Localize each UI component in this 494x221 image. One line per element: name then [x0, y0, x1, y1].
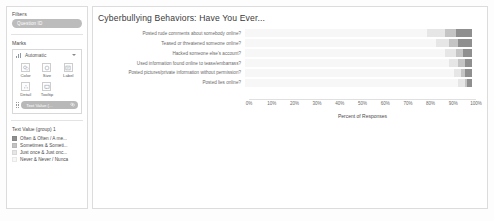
legend-item-label: Sometimes & Someti... — [20, 143, 68, 148]
chevron-down-icon — [72, 54, 76, 56]
x-axis-tick: 20% — [290, 101, 299, 106]
marks-shelf-size[interactable]: Size — [36, 63, 57, 78]
bar-segment[interactable] — [465, 59, 472, 66]
bar-segment[interactable] — [436, 39, 450, 46]
x-axis-tick: 10% — [267, 101, 276, 106]
legend-swatch — [12, 157, 17, 162]
bar-segment[interactable] — [458, 79, 465, 86]
legend-item[interactable]: Never & Never / Nunca — [7, 156, 87, 163]
bar-row: Used information found online to tease/e… — [93, 59, 487, 67]
filter-pill-label: Question ID — [17, 21, 42, 26]
bar-segment[interactable] — [465, 69, 472, 76]
legend-item-label: Often & Often / A me... — [20, 136, 67, 141]
mark-type-label: Automatic — [25, 53, 72, 58]
bar-segment[interactable] — [449, 59, 458, 66]
bar-row-label: Posted pictures/private information with… — [93, 70, 245, 75]
stacked-bar[interactable] — [245, 49, 472, 56]
bar-row-label: Posted rude comments about somebody onli… — [93, 31, 245, 36]
bar-segment[interactable] — [463, 49, 472, 56]
field-pill-color-icon — [70, 102, 75, 108]
bar-segment[interactable] — [458, 59, 465, 66]
marks-shelf-tooltip[interactable]: Tooltip — [36, 82, 57, 97]
x-axis-tick: 60% — [381, 101, 390, 106]
plot-area: Posted rude comments about somebody onli… — [93, 29, 487, 99]
bar-row: Posted pictures/private information with… — [93, 69, 487, 77]
legend-swatch — [12, 143, 17, 148]
legend-item[interactable]: Sometimes & Someti... — [7, 142, 87, 149]
bar-row-label: Teased or threatened someone online? — [93, 41, 245, 46]
bar-segment[interactable] — [449, 39, 458, 46]
stacked-bar[interactable] — [245, 79, 472, 86]
x-axis-tick: 50% — [358, 101, 367, 106]
bar-segment[interactable] — [454, 69, 461, 76]
marks-shelf-label-label: Label — [63, 73, 74, 78]
bar-segment[interactable] — [445, 29, 456, 36]
bar-segment[interactable] — [458, 39, 472, 46]
bar-segment[interactable] — [245, 59, 449, 66]
bar-row-label: Posted lies online? — [93, 80, 245, 85]
marks-shelf-label[interactable]: Label — [58, 63, 79, 78]
tooltip-icon — [42, 82, 51, 91]
stacked-bar[interactable] — [245, 29, 472, 36]
legend-item-label: Never & Never / Nunca — [20, 157, 68, 162]
bar-row: Hacked someone else's account? — [93, 49, 487, 57]
marks-shelf-size-label: Size — [43, 73, 51, 78]
bar-segment[interactable] — [245, 39, 436, 46]
bar-segment[interactable] — [245, 29, 427, 36]
marks-shelf-spacer — [58, 82, 79, 97]
marks-field-pill-row: Text Value (... — [13, 98, 81, 113]
filter-pill-question-id[interactable]: Question ID — [12, 19, 82, 28]
detail-icon — [21, 82, 30, 91]
stacked-bar[interactable] — [245, 69, 472, 76]
x-axis-tick: 70% — [403, 101, 412, 106]
bar-segment[interactable] — [467, 79, 472, 86]
marks-card: Automatic Color Size — [12, 49, 82, 114]
bar-rows: Posted rude comments about somebody onli… — [93, 29, 487, 89]
legend-item[interactable]: Often & Often / A me... — [7, 135, 87, 142]
chart-title: Cyberbullying Behaviors: Have You Ever..… — [93, 7, 487, 23]
legend-swatch — [12, 150, 17, 155]
marks-shelf-detail-label: Detail — [20, 92, 31, 97]
color-icon — [21, 63, 30, 72]
stacked-bar[interactable] — [245, 59, 472, 66]
bar-segment[interactable] — [445, 49, 456, 56]
x-axis-title: Percent of Responses — [249, 113, 476, 119]
color-legend: Often & Often / A me... Sometimes & Some… — [7, 135, 87, 163]
marks-shelf-detail[interactable]: Detail — [15, 82, 36, 97]
marks-shelf-tooltip-label: Tooltip — [41, 92, 53, 97]
bar-row: Posted rude comments about somebody onli… — [93, 29, 487, 37]
x-axis-tick: 100% — [470, 101, 482, 106]
field-pill-label: Text Value (... — [26, 103, 53, 108]
x-axis-tick: 40% — [335, 101, 344, 106]
bar-segment[interactable] — [245, 49, 445, 56]
size-icon — [42, 63, 51, 72]
chart-panel: Cyberbullying Behaviors: Have You Ever..… — [92, 6, 488, 209]
x-axis: 0%10%20%30%40%50%60%70%80%90%100% Percen… — [249, 101, 476, 123]
bar-row: Teased or threatened someone online? — [93, 39, 487, 47]
marks-title: Marks — [7, 35, 87, 49]
bar-segment[interactable] — [456, 29, 472, 36]
bar-segment[interactable] — [245, 79, 458, 86]
stacked-bar[interactable] — [245, 39, 472, 46]
x-axis-ticks: 0%10%20%30%40%50%60%70%80%90%100% — [249, 101, 476, 109]
drag-handle-icon[interactable] — [16, 102, 19, 107]
legend-item-label: Just once & Just onc... — [20, 150, 67, 155]
label-icon — [64, 63, 73, 72]
bar-chart-icon — [16, 53, 22, 58]
bar-segment[interactable] — [427, 29, 445, 36]
bar-row-label: Hacked someone else's account? — [93, 51, 245, 56]
x-axis-tick: 90% — [449, 101, 458, 106]
tableau-dashboard: Filters Question ID Marks Automatic Colo… — [0, 0, 494, 221]
legend-item[interactable]: Just once & Just onc... — [7, 149, 87, 156]
axis-line — [249, 99, 476, 100]
mark-type-selector[interactable]: Automatic — [13, 50, 81, 60]
bar-segment[interactable] — [245, 69, 454, 76]
field-pill-text-value[interactable]: Text Value (... — [21, 101, 78, 109]
legend-swatch — [12, 136, 17, 141]
x-axis-tick: 0% — [246, 101, 253, 106]
marks-shelf-color[interactable]: Color — [15, 63, 36, 78]
bar-segment[interactable] — [456, 49, 463, 56]
marks-shelf-row-primary: Color Size Label — [13, 60, 81, 79]
x-axis-tick: 80% — [426, 101, 435, 106]
x-axis-tick: 30% — [313, 101, 322, 106]
